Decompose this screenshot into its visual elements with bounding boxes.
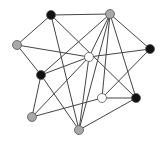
edge-G-I bbox=[32, 98, 102, 117]
edge-A-B bbox=[51, 14, 110, 15]
node-H-black bbox=[132, 94, 141, 103]
graph-nodes bbox=[13, 10, 155, 135]
edge-A-C bbox=[17, 15, 51, 45]
edge-E-J bbox=[79, 57, 89, 130]
edge-C-E bbox=[17, 45, 89, 57]
edge-B-D bbox=[110, 14, 150, 49]
node-C-gray bbox=[13, 41, 22, 50]
edge-F-J bbox=[41, 75, 79, 130]
edge-D-G bbox=[102, 49, 150, 98]
node-J-gray bbox=[75, 126, 84, 135]
node-I-gray bbox=[28, 113, 37, 122]
node-A-black bbox=[47, 11, 56, 20]
node-B-gray bbox=[106, 10, 115, 19]
edge-B-J bbox=[79, 14, 110, 130]
edge-B-F bbox=[41, 14, 110, 75]
edge-D-E bbox=[89, 49, 150, 57]
node-F-black bbox=[37, 71, 46, 80]
node-D-black bbox=[146, 45, 155, 54]
edge-B-G bbox=[102, 14, 110, 98]
node-E-white bbox=[85, 53, 94, 62]
edge-H-J bbox=[79, 98, 136, 130]
edge-F-I bbox=[32, 75, 41, 117]
edge-E-I bbox=[32, 57, 89, 117]
network-graph bbox=[0, 0, 164, 142]
node-G-white bbox=[98, 94, 107, 103]
graph-edges bbox=[17, 14, 150, 130]
edge-C-F bbox=[17, 45, 41, 75]
